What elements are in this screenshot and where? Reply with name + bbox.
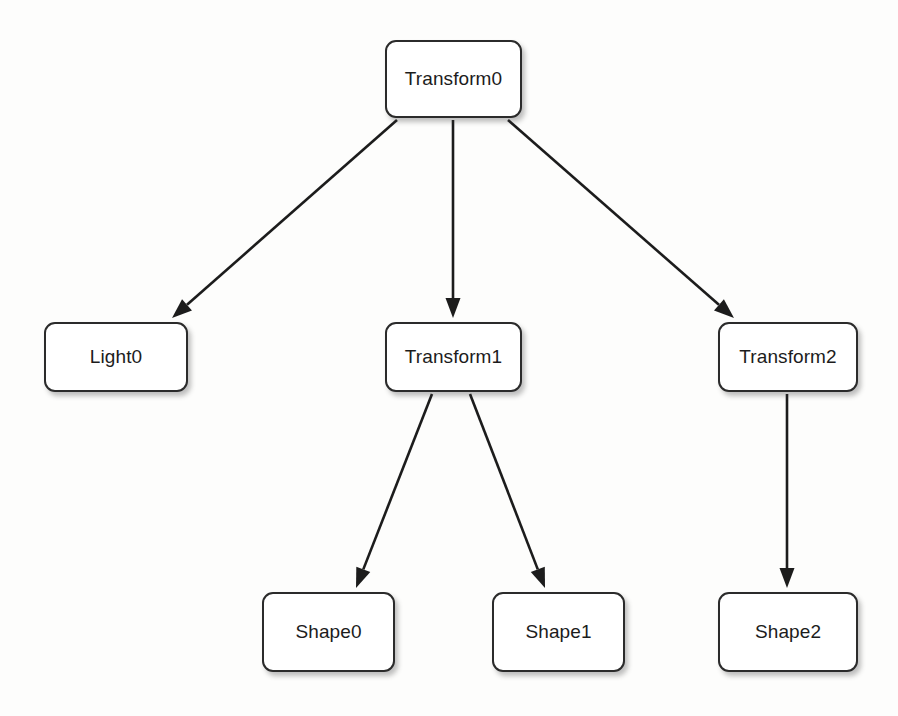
arrowhead-icon	[446, 298, 461, 318]
edge-transform0-transform2	[508, 120, 734, 318]
node-label: Transform1	[405, 346, 502, 368]
node-label: Light0	[90, 346, 142, 368]
node-transform0[interactable]: Transform0	[385, 40, 522, 118]
node-transform1[interactable]: Transform1	[385, 322, 522, 392]
arrowhead-icon	[531, 567, 545, 588]
node-label: Shape0	[295, 621, 361, 643]
arrowhead-icon	[780, 568, 795, 588]
node-light0[interactable]: Light0	[44, 322, 188, 392]
edge-line	[363, 394, 432, 569]
edge-line	[508, 120, 719, 305]
edge-transform1-shape1	[470, 394, 545, 588]
edge-line	[470, 394, 538, 569]
edge-transform2-shape2	[780, 394, 795, 588]
edge-line	[187, 120, 397, 305]
arrowhead-icon	[356, 567, 370, 588]
arrowhead-icon	[714, 299, 734, 318]
edge-transform0-light0	[172, 120, 397, 318]
node-label: Shape2	[755, 621, 821, 643]
diagram-canvas: Transform0Light0Transform1Transform2Shap…	[0, 0, 898, 716]
edge-transform0-transform1	[446, 120, 461, 318]
node-shape1[interactable]: Shape1	[492, 592, 625, 672]
edge-transform1-shape0	[356, 394, 432, 588]
arrowhead-icon	[172, 299, 192, 318]
node-shape2[interactable]: Shape2	[718, 592, 858, 672]
node-label: Shape1	[525, 621, 591, 643]
node-shape0[interactable]: Shape0	[262, 592, 395, 672]
node-label: Transform0	[405, 68, 502, 90]
node-label: Transform2	[739, 346, 836, 368]
node-transform2[interactable]: Transform2	[718, 322, 858, 392]
